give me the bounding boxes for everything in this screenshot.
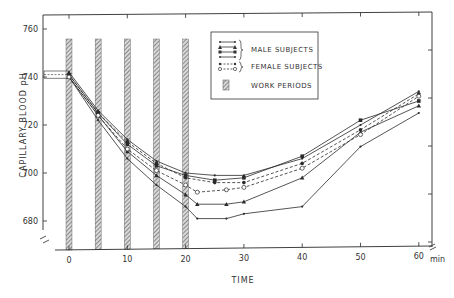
data-point bbox=[213, 181, 217, 185]
data-point bbox=[185, 172, 187, 174]
data-point bbox=[243, 213, 245, 215]
data-point bbox=[224, 188, 228, 192]
data-point bbox=[243, 174, 245, 176]
data-point bbox=[97, 119, 99, 121]
legend-work-label: WORK PERIODS bbox=[251, 82, 312, 90]
x-tick-label: 10 bbox=[122, 255, 132, 264]
data-point bbox=[359, 118, 363, 122]
x-tick-label: 0 bbox=[66, 256, 71, 265]
data-point bbox=[96, 113, 100, 117]
data-point bbox=[301, 206, 303, 208]
data-point bbox=[225, 218, 227, 220]
data-point bbox=[300, 162, 304, 166]
x-axis-unit: min bbox=[430, 255, 445, 264]
data-point bbox=[184, 183, 188, 187]
data-point bbox=[301, 158, 303, 160]
data-point bbox=[125, 147, 129, 151]
data-point bbox=[196, 218, 198, 220]
data-point bbox=[417, 104, 421, 108]
data-point bbox=[242, 181, 246, 185]
data-point bbox=[155, 184, 157, 186]
data-point bbox=[417, 94, 421, 98]
x-tick-label: 50 bbox=[355, 253, 365, 262]
y-tick-label: 760 bbox=[23, 25, 38, 34]
data-point bbox=[67, 75, 71, 79]
data-point bbox=[126, 158, 128, 160]
data-point bbox=[242, 185, 246, 189]
legend: MALE SUBJECTS FEMALE SUBJECTS WORK PERIO… bbox=[211, 32, 323, 99]
data-point bbox=[359, 128, 363, 132]
axis-break-icon bbox=[429, 244, 436, 250]
data-point bbox=[214, 174, 216, 176]
legend-work-swatch bbox=[223, 80, 229, 90]
data-point bbox=[195, 190, 199, 194]
data-point bbox=[154, 169, 158, 173]
data-point bbox=[300, 166, 304, 170]
work-period-bar bbox=[66, 39, 72, 250]
data-point bbox=[184, 176, 188, 180]
axis-break-icon bbox=[40, 236, 49, 243]
x-tick-label: 30 bbox=[239, 254, 249, 263]
data-point bbox=[359, 146, 361, 148]
data-point bbox=[126, 140, 130, 144]
data-point bbox=[242, 176, 246, 180]
data-point bbox=[359, 133, 363, 137]
x-tick-label: 60 bbox=[414, 252, 424, 261]
data-point bbox=[185, 206, 187, 208]
y-axis-title: CAPILLARY BLOOD pH bbox=[19, 72, 28, 177]
data-point bbox=[242, 200, 246, 204]
legend-female-label: FEMALE SUBJECTS bbox=[251, 63, 323, 71]
data-point bbox=[417, 99, 421, 103]
y-tick-label: 680 bbox=[23, 217, 38, 226]
data-point bbox=[155, 162, 159, 166]
x-tick-label: 20 bbox=[181, 255, 191, 264]
x-tick-label: 40 bbox=[297, 253, 307, 262]
legend-male-label: MALE SUBJECTS bbox=[251, 46, 313, 54]
work-period-bar bbox=[153, 39, 159, 249]
work-period-bar bbox=[95, 39, 101, 250]
data-point bbox=[418, 112, 420, 114]
x-axis-title: TIME bbox=[230, 276, 254, 285]
ph-line-chart: 680700720740760 0102030405060 CAPILLARY … bbox=[0, 0, 454, 298]
work-period-bar bbox=[183, 39, 189, 248]
data-point bbox=[359, 124, 361, 126]
